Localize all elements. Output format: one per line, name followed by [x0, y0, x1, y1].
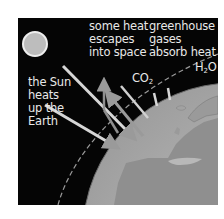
greenhouse-diagram: some heat escapes into space greenhouse …	[18, 18, 218, 205]
label-co2: CO2	[132, 72, 153, 89]
label-greenhouse-gases: greenhouse gases absorb heat	[149, 20, 216, 59]
label-heat-escapes: some heat escapes into space	[89, 20, 148, 59]
label-sun-heats-earth: the Sun heats up the Earth	[28, 76, 71, 128]
sun-icon	[23, 32, 47, 56]
absorbed-heat-bar	[154, 93, 157, 106]
sunlight-arrow	[63, 66, 131, 135]
label-h2o: H2O	[195, 61, 217, 78]
